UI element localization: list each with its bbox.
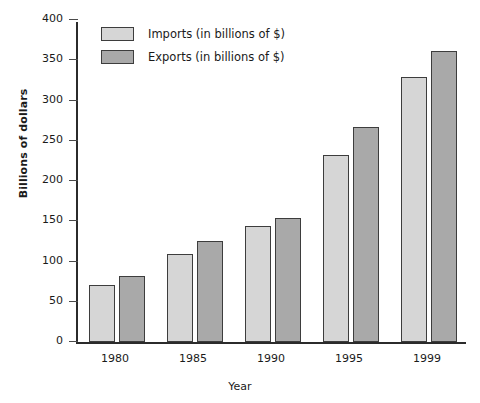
x-axis-tick-label: 1985 <box>163 352 223 365</box>
y-axis-tick: 250 <box>69 140 78 141</box>
bar-1980-exports <box>119 276 145 342</box>
x-axis-tick-label: 1995 <box>319 352 379 365</box>
legend-swatch-exports <box>101 50 134 64</box>
bar-1990-imports <box>245 226 271 342</box>
x-axis-tick-label: 1980 <box>85 352 145 365</box>
y-axis-title: Billions of dollars <box>17 74 30 214</box>
x-axis-tick-label: 1990 <box>241 352 301 365</box>
chart-legend: Imports (in billions of $)Exports (in bi… <box>101 24 285 70</box>
y-axis-tick: 0 <box>69 341 78 342</box>
y-axis-tick: 100 <box>69 261 78 262</box>
y-axis-tick: 150 <box>69 220 78 221</box>
y-axis-tick-label: 0 <box>56 334 63 347</box>
legend-item-imports: Imports (in billions of $) <box>101 24 285 43</box>
plot-area: 050100150200250300350400 <box>76 22 466 344</box>
y-axis-tick-label: 100 <box>42 254 63 267</box>
y-axis-tick-label: 200 <box>42 173 63 186</box>
bar-1990-exports <box>275 218 301 342</box>
y-axis-tick-label: 50 <box>49 294 63 307</box>
bars-layer <box>78 22 466 342</box>
bar-1995-imports <box>323 155 349 342</box>
y-axis-tick: 200 <box>69 180 78 181</box>
y-axis-tick-label: 150 <box>42 213 63 226</box>
y-axis-tick-label: 400 <box>42 12 63 25</box>
legend-item-exports: Exports (in billions of $) <box>101 47 285 66</box>
legend-label: Imports (in billions of $) <box>148 27 285 41</box>
y-axis-tick: 350 <box>69 59 78 60</box>
bar-1985-imports <box>167 254 193 342</box>
legend-swatch-imports <box>101 27 134 41</box>
y-axis-tick: 400 <box>69 19 78 20</box>
bar-chart: Billions of dollars 05010015020025030035… <box>0 0 480 403</box>
bar-1985-exports <box>197 241 223 342</box>
y-axis-tick-label: 250 <box>42 133 63 146</box>
bar-1999-exports <box>431 51 457 342</box>
bar-1995-exports <box>353 127 379 342</box>
y-axis-tick: 50 <box>69 301 78 302</box>
y-axis-tick-label: 300 <box>42 93 63 106</box>
bar-1980-imports <box>89 285 115 342</box>
y-axis-tick-label: 350 <box>42 52 63 65</box>
bar-1999-imports <box>401 77 427 342</box>
y-axis-tick: 300 <box>69 100 78 101</box>
x-axis-title: Year <box>0 380 480 393</box>
legend-label: Exports (in billions of $) <box>148 50 285 64</box>
x-axis-tick-label: 1999 <box>397 352 457 365</box>
